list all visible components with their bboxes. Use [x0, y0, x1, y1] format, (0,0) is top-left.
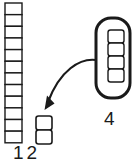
unit-square — [108, 56, 124, 69]
unit-square — [5, 85, 22, 97]
unit-square — [5, 73, 22, 85]
unit-square — [36, 116, 52, 130]
unit-square — [5, 120, 22, 132]
unit-square — [108, 43, 124, 56]
unit-square — [108, 30, 124, 43]
diagram-canvas: 12 4 — [0, 0, 133, 161]
arrow-shaft — [48, 60, 96, 102]
unit-square — [5, 3, 22, 15]
regrouping-arrow — [45, 60, 97, 110]
ones-column-count-label: 12 — [13, 143, 40, 161]
unit-square — [5, 61, 22, 73]
unit-square — [5, 50, 22, 62]
unit-square — [5, 96, 22, 108]
twelve-unit-column — [5, 3, 22, 143]
unit-square — [5, 15, 22, 27]
unit-square — [5, 38, 22, 50]
group-of-four-container — [96, 18, 130, 98]
unit-square — [5, 108, 22, 120]
group-of-four-count-label: 4 — [104, 109, 115, 128]
unit-square — [108, 69, 124, 82]
diagram-vector-layer — [0, 0, 133, 161]
unit-square — [5, 26, 22, 38]
two-unit-stack — [36, 116, 52, 144]
